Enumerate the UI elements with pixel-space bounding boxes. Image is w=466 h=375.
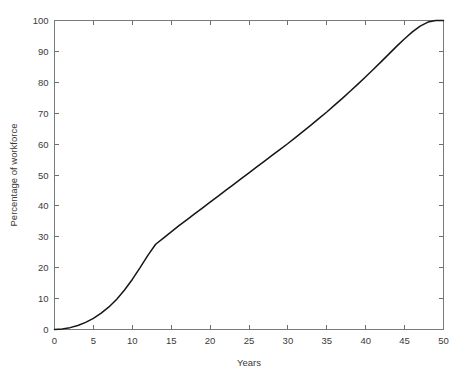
x-tick-label: 0 — [52, 335, 57, 346]
x-tick-label: 40 — [360, 335, 371, 346]
x-tick-label: 5 — [91, 335, 96, 346]
x-tick-label: 15 — [166, 335, 177, 346]
y-tick-label: 100 — [33, 15, 49, 26]
y-axis-title: Percentage of workforce — [8, 124, 19, 227]
x-tick-label: 35 — [322, 335, 333, 346]
y-tick-label: 70 — [38, 108, 49, 119]
y-tick-label: 20 — [38, 262, 49, 273]
x-axis-title: Years — [237, 357, 261, 368]
line-chart: 05101520253035404550 0102030405060708090… — [0, 0, 466, 375]
y-tick-label: 10 — [38, 293, 49, 304]
x-tick-label: 30 — [283, 335, 294, 346]
y-tick-label: 90 — [38, 46, 49, 57]
chart-background — [0, 0, 466, 375]
x-tick-label: 10 — [127, 335, 138, 346]
figure-container: 05101520253035404550 0102030405060708090… — [0, 0, 466, 375]
x-tick-label: 20 — [205, 335, 216, 346]
x-tick-label: 45 — [399, 335, 410, 346]
y-tick-label: 80 — [38, 77, 49, 88]
y-tick-label: 40 — [38, 200, 49, 211]
y-tick-label: 30 — [38, 231, 49, 242]
y-tick-label: 50 — [38, 170, 49, 181]
y-tick-label: 0 — [43, 324, 48, 335]
y-tick-label: 60 — [38, 139, 49, 150]
x-tick-label: 50 — [438, 335, 449, 346]
x-tick-label: 25 — [244, 335, 255, 346]
